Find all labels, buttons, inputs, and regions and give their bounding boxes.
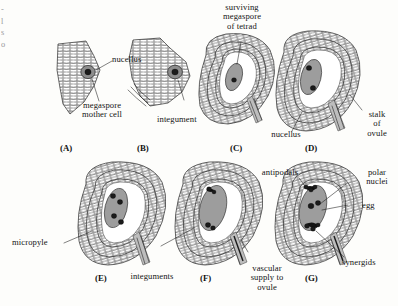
panel-d-drawing (268, 25, 366, 135)
panel-letter-b: (B) (137, 143, 149, 153)
panel-letter-f: (F) (200, 273, 211, 283)
label-nucellus-d: nucellus (265, 130, 307, 139)
panel-letter-d: (D) (305, 143, 317, 153)
panel-letter-g: (G) (305, 273, 318, 283)
ovule-development-figure: - l s o .cw{fill:#fff;stroke:#2b2b2b;str… (0, 0, 398, 306)
label-micropyle: micropyle (12, 238, 48, 247)
figure-drawing-canvas: .cw{fill:#fff;stroke:#2b2b2b;stroke-widt… (0, 0, 398, 306)
panel-c-drawing (192, 28, 284, 130)
label-egg: egg (362, 201, 375, 210)
label-antipodals: antipodals (255, 168, 305, 177)
panel-e-drawing (64, 156, 170, 270)
panel-letter-e: (E) (95, 273, 107, 283)
label-polar-nuclei: polar nuclei (358, 168, 396, 187)
label-synergids: synergids (342, 258, 376, 267)
label-integument: integument (157, 115, 197, 124)
panel-f-drawing (161, 156, 267, 270)
panel-letter-c: (C) (230, 143, 242, 153)
label-stalk-of-ovule: stalk of ovule (360, 110, 394, 138)
label-megaspore-mother-cell: megaspore mother cell (62, 101, 142, 120)
label-surviving-megaspore: surviving megaspore of tetrad (209, 3, 275, 31)
label-integuments: integuments (123, 272, 181, 281)
panel-letter-a: (A) (60, 143, 72, 153)
label-vascular-supply-to-ovule: vascular supply to ovule (240, 264, 294, 292)
label-nucellus-a: nucellus (112, 55, 141, 64)
